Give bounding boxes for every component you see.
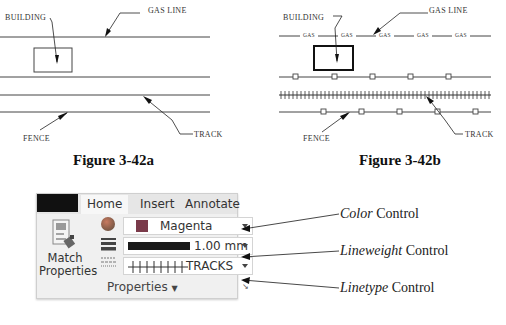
callout-italic: Lineweight (340, 243, 402, 258)
lineweight-control-callout: Lineweight Control (340, 243, 449, 259)
callout-leaders (0, 0, 506, 325)
linetype-control-callout: Linetype Control (340, 280, 435, 296)
color-control-callout: Color Control (340, 206, 419, 222)
callout-italic: Linetype (340, 280, 388, 295)
callout-italic: Color (340, 206, 373, 221)
callout-text: Control (373, 206, 419, 221)
callout-text: Control (402, 243, 448, 258)
callout-text: Control (388, 280, 434, 295)
